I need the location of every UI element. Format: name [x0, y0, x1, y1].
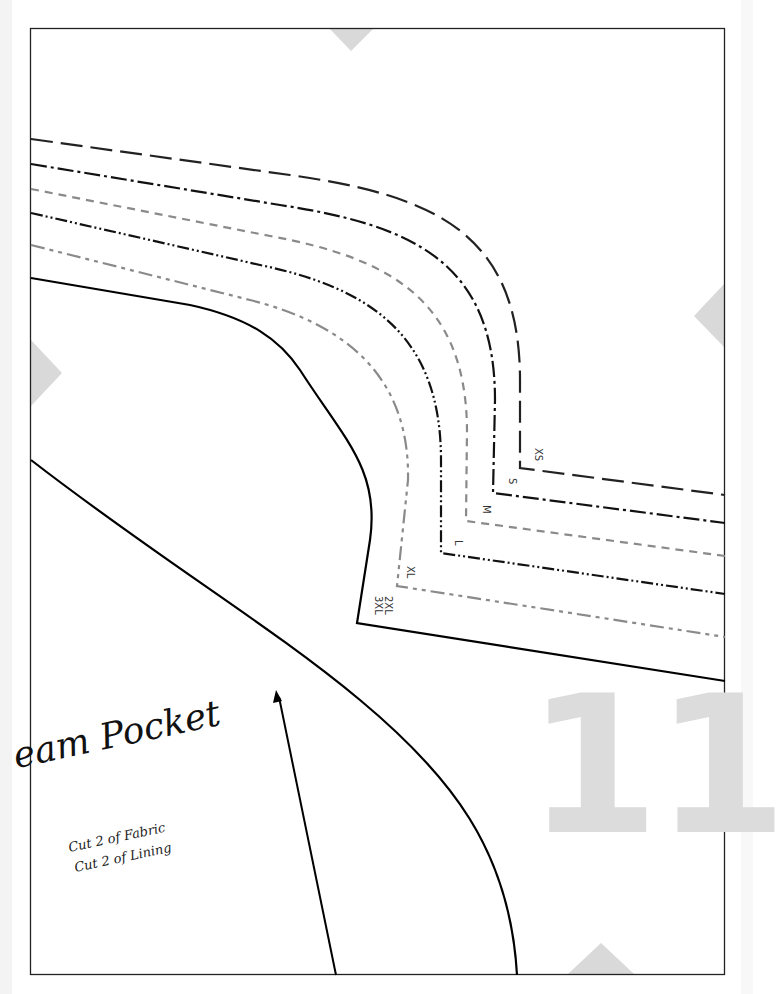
alignment-marker-bottom — [568, 943, 634, 974]
grainline-arrowhead — [273, 690, 282, 703]
size-label-m: M — [481, 505, 491, 514]
size-label-xl: XL — [405, 566, 415, 578]
size-line-xs — [31, 139, 725, 495]
alignment-marker-right — [694, 283, 725, 348]
page-number: 11 — [527, 672, 779, 862]
size-label-s: S — [507, 478, 517, 484]
alignment-marker-left — [31, 340, 62, 406]
size-line-s — [31, 164, 725, 523]
size-label-l: L — [453, 540, 463, 546]
size-label-2xl-3xl: 2XL 3XL — [373, 596, 393, 615]
alignment-marker-top — [329, 28, 374, 51]
size-line-m — [31, 189, 725, 556]
size-lines — [31, 139, 725, 637]
size-label-xs: XS — [533, 448, 543, 461]
grainline — [279, 697, 336, 975]
